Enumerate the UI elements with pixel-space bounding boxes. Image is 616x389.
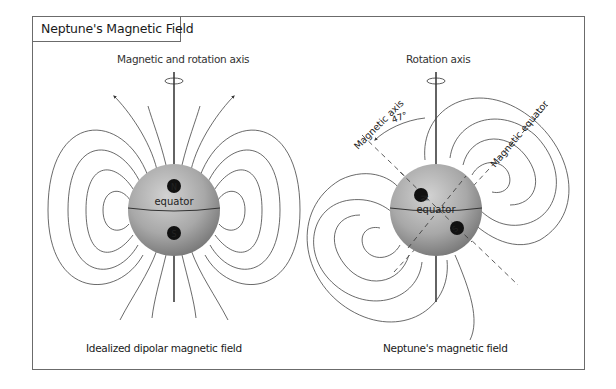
right-equator-label: equator [416,204,456,215]
right-north-label: N [419,195,428,201]
left-north-label: N [171,183,177,192]
left-equator-label: equator [154,196,194,207]
magnetic-axis-label: Magnetic axis [352,97,406,151]
left-caption: Idealized dipolar magnetic field [86,342,242,354]
magnetic-equator-label: Magnetic equator [488,98,550,169]
magnetic-field-diagram: N S equator N S equator Magnetic axis Ma… [0,0,616,389]
left-south-label: S [171,230,176,239]
right-caption: Neptune's magnetic field [383,342,508,354]
